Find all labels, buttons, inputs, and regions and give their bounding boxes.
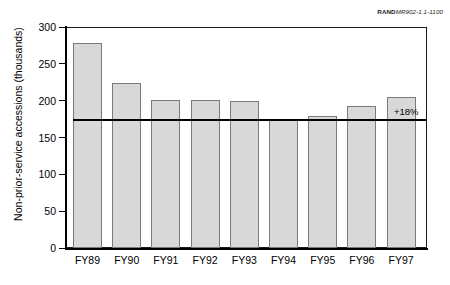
bar <box>347 106 376 248</box>
y-axis-tick-label: 150 <box>16 133 56 143</box>
x-axis-line <box>65 248 428 250</box>
bar <box>73 43 102 248</box>
source-identifier: RANDMR902-1.1-1100 <box>377 8 443 15</box>
bar <box>112 83 141 248</box>
chart-figure: RANDMR902-1.1-1100 Non-prior-service acc… <box>0 0 450 285</box>
x-axis-tick-label: FY93 <box>224 253 265 267</box>
y-axis-tick-label: 100 <box>16 169 56 179</box>
x-axis-tick-label: FY96 <box>341 253 382 267</box>
y-axis-tick <box>59 174 66 175</box>
y-axis-tick-label: 50 <box>16 206 56 216</box>
bar <box>151 100 180 248</box>
x-axis-tick-label: FY97 <box>381 253 422 267</box>
bar <box>230 101 259 248</box>
x-axis-tick-label: FY89 <box>67 253 108 267</box>
x-axis-tick-label: FY95 <box>302 253 343 267</box>
y-axis-tick-label: 200 <box>16 96 56 106</box>
y-axis-tick <box>59 137 66 138</box>
y-axis-line <box>65 26 67 250</box>
y-axis-tick <box>59 211 66 212</box>
source-identifier-document-number: MR902-1.1-1100 <box>396 8 443 15</box>
bar <box>269 120 298 248</box>
y-axis-tick <box>59 27 66 28</box>
y-axis-tick <box>59 63 66 64</box>
bar <box>191 100 220 248</box>
x-axis-tick-label: FY91 <box>145 253 186 267</box>
y-axis-tick-label: 250 <box>16 59 56 69</box>
y-axis-tick <box>59 248 66 249</box>
x-axis-tick-label: FY92 <box>185 253 226 267</box>
x-axis-tick-label: FY90 <box>106 253 147 267</box>
bar <box>308 116 337 248</box>
y-axis-tick <box>59 100 66 101</box>
y-axis-tick-label: 300 <box>16 22 56 32</box>
y-axis-tick-label: 0 <box>16 243 56 253</box>
reference-line <box>73 119 427 121</box>
x-axis-tick-label: FY94 <box>263 253 304 267</box>
source-identifier-brand: RAND <box>377 8 395 15</box>
reference-line-label: +18% <box>394 107 419 117</box>
